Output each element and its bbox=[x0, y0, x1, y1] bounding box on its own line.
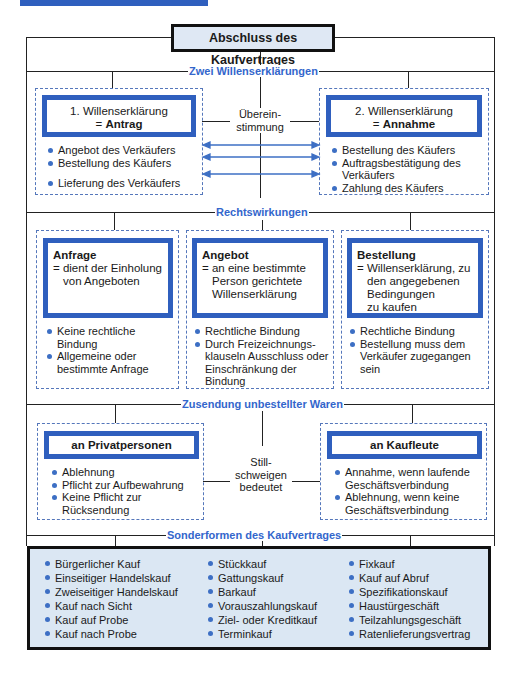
list-item: Lieferung des Verkäufers bbox=[46, 177, 201, 190]
connector-line bbox=[115, 404, 116, 423]
label-line: Überein- bbox=[230, 108, 290, 121]
section-title-sonderformen: Sonderformen des Kaufvertrages bbox=[166, 529, 342, 541]
bestellung-title: Bestellung bbox=[357, 249, 473, 262]
list-item: Auftragsbestätigung des Verkäufers bbox=[330, 157, 485, 182]
section-title-willenserklaerungen: Zwei Willenserklärungen bbox=[188, 65, 319, 77]
antrag-list: Angebot des Verkäufers Bestellung des Kä… bbox=[46, 144, 201, 190]
desc-line: = an eine bestimmte bbox=[202, 262, 318, 275]
kaufleute-group: an Kaufleute Annahme, wenn laufende Gesc… bbox=[320, 423, 487, 520]
antrag-box: 1. Willenserklärung = Antrag bbox=[42, 95, 196, 137]
angebot-box: Angebot = an eine bestimmte Person geric… bbox=[192, 238, 328, 318]
list-item: Zweiseitiger Handelskauf bbox=[43, 585, 178, 599]
privatpersonen-box: an Privatpersonen bbox=[44, 431, 199, 459]
list-item: Gattungskauf bbox=[206, 571, 317, 585]
frame-line bbox=[494, 37, 495, 546]
list-item: Annahme, wenn laufende Geschäftsverbindu… bbox=[333, 466, 483, 491]
list-item: Ziel- oder Kreditkauf bbox=[206, 613, 317, 627]
label-line: schweigen bbox=[230, 469, 292, 482]
anfrage-box: Anfrage = dient der Einholung von Angebo… bbox=[43, 238, 173, 318]
angebot-title: Angebot bbox=[202, 249, 318, 262]
antrag-label: Antrag bbox=[105, 118, 142, 130]
list-item: Pflicht zur Aufbewahrung bbox=[50, 479, 200, 492]
connector-line bbox=[292, 481, 320, 482]
antrag-line1: 1. Willenserklärung bbox=[47, 105, 191, 118]
desc-line: den angegebenen bbox=[357, 275, 473, 288]
angebot-list: Rechtliche Bindung Durch Freizeichnungs-… bbox=[193, 325, 331, 388]
label-line: Still- bbox=[230, 456, 292, 469]
annahme-box: 2. Willenserklärung = Annahme bbox=[326, 95, 482, 137]
list-item: Zahlung des Käufers bbox=[330, 182, 485, 195]
list-item: Teilzahlungsgeschäft bbox=[347, 613, 470, 627]
anfrage-group: Anfrage = dient der Einholung von Angebo… bbox=[36, 230, 179, 389]
kaufleute-list: Annahme, wenn laufende Geschäftsverbindu… bbox=[333, 466, 483, 516]
connector-line bbox=[262, 411, 263, 446]
anfrage-title: Anfrage bbox=[53, 249, 163, 262]
connector-line bbox=[262, 220, 263, 230]
list-item: Haustürgeschäft bbox=[347, 599, 470, 613]
desc-line: Person gerichtete bbox=[202, 275, 318, 288]
desc-line: = Willenserklärung, zu bbox=[357, 262, 473, 275]
annahme-label: Annahme bbox=[383, 118, 435, 130]
list-item: Angebot des Verkäufers bbox=[46, 144, 201, 157]
frame-line bbox=[26, 37, 27, 546]
list-item: Fixkauf bbox=[347, 557, 470, 571]
list-item: Kauf auf Probe bbox=[43, 613, 178, 627]
desc-line: Bedingungen bbox=[357, 288, 473, 301]
bestellung-list: Rechtliche Bindung Bestellung muss dem V… bbox=[348, 325, 486, 375]
list-item: Barkauf bbox=[206, 585, 317, 599]
connector-line bbox=[114, 212, 115, 230]
double-arrows bbox=[203, 140, 319, 180]
uebereinstimmung-label: Überein- stimmung bbox=[230, 108, 290, 133]
sonderformen-column-3: Fixkauf Kauf auf Abruf Spezifikationskau… bbox=[347, 557, 470, 641]
sonderformen-box: Bürgerlicher Kauf Einseitiger Handelskau… bbox=[27, 546, 491, 650]
list-item: Bestellung muss dem Verkäufer zugegangen… bbox=[348, 338, 486, 376]
connector-line bbox=[202, 121, 232, 122]
list-item: Ratenlieferungsvertrag bbox=[347, 627, 470, 641]
list-item: Kauf nach Probe bbox=[43, 627, 178, 641]
annahme-line1: 2. Willenserklärung bbox=[331, 105, 477, 118]
main-title: Abschluss des Kaufvertrages bbox=[171, 24, 335, 52]
bestellung-box: Bestellung = Willenserklärung, zu den an… bbox=[347, 238, 483, 318]
equals-sign: = bbox=[96, 118, 106, 130]
sonderformen-column-2: Stückkauf Gattungskauf Barkauf Vorauszah… bbox=[206, 557, 317, 641]
list-item: Einseitiger Handelskauf bbox=[43, 571, 178, 585]
list-item: Bürgerlicher Kauf bbox=[43, 557, 178, 571]
section-title-zusendung: Zusendung unbestellter Waren bbox=[181, 398, 344, 410]
list-item: Kauf auf Abruf bbox=[347, 571, 470, 585]
annahme-list: Bestellung des Käufers Auftragsbestätigu… bbox=[330, 144, 485, 194]
connector-line bbox=[112, 71, 113, 88]
desc-line: zu kaufen bbox=[357, 301, 473, 314]
anfrage-list: Keine rechtliche Bindung Allgemeine oder… bbox=[45, 325, 170, 375]
stillschweigen-label: Still- schweigen bedeutet bbox=[230, 456, 292, 494]
section-title-rechtswirkungen: Rechtswirkungen bbox=[215, 206, 309, 218]
label-line: bedeutet bbox=[230, 481, 292, 494]
list-item: Spezifikationskauf bbox=[347, 585, 470, 599]
desc-line: Willenserklärung bbox=[202, 288, 318, 301]
antrag-group: 1. Willenserklärung = Antrag Angebot des… bbox=[35, 88, 203, 195]
privatpersonen-list: Ablehnung Pflicht zur Aufbewahrung Keine… bbox=[50, 466, 200, 516]
kaufleute-box: an Kaufleute bbox=[327, 431, 482, 459]
connector-line bbox=[412, 404, 413, 423]
list-item: Durch Freizeichnungs-klauseln Ausschluss… bbox=[193, 338, 331, 388]
list-item: Ablehnung bbox=[50, 466, 200, 479]
list-item: Terminkauf bbox=[206, 627, 317, 641]
label-line: stimmung bbox=[230, 121, 290, 134]
desc-line: = dient der Einholung bbox=[53, 262, 163, 275]
list-item: Allgemeine oder bestimmte Anfrage bbox=[45, 350, 170, 375]
list-item: Ablehnung, wenn keine Geschäftsverbindun… bbox=[333, 491, 483, 516]
desc-line: von Angeboten bbox=[53, 275, 163, 288]
list-item: Stückkauf bbox=[206, 557, 317, 571]
annahme-group: 2. Willenserklärung = Annahme Bestellung… bbox=[319, 88, 489, 195]
connector-line bbox=[203, 481, 231, 482]
frame-line bbox=[335, 37, 494, 38]
connector-line bbox=[408, 71, 409, 88]
angebot-group: Angebot = an eine bestimmte Person geric… bbox=[186, 230, 334, 389]
connector-line bbox=[289, 121, 319, 122]
list-item: Bestellung des Käufers bbox=[330, 144, 485, 157]
list-item: Keine rechtliche Bindung bbox=[45, 325, 170, 350]
list-item: Rechtliche Bindung bbox=[193, 325, 331, 338]
privatpersonen-group: an Privatpersonen Ablehnung Pflicht zur … bbox=[37, 423, 204, 520]
list-item: Keine Pflicht zur Rücksendung bbox=[50, 491, 200, 516]
connector-line bbox=[410, 212, 411, 230]
frame-line bbox=[26, 37, 172, 38]
